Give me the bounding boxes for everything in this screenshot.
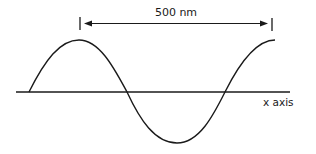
arrowhead-right-icon (260, 21, 268, 27)
wave-diagram: 500 nm x axis (0, 0, 316, 154)
axis-label: x axis (263, 96, 294, 108)
wavelength-label: 500 nm (155, 6, 197, 19)
arrowhead-left-icon (84, 21, 92, 27)
